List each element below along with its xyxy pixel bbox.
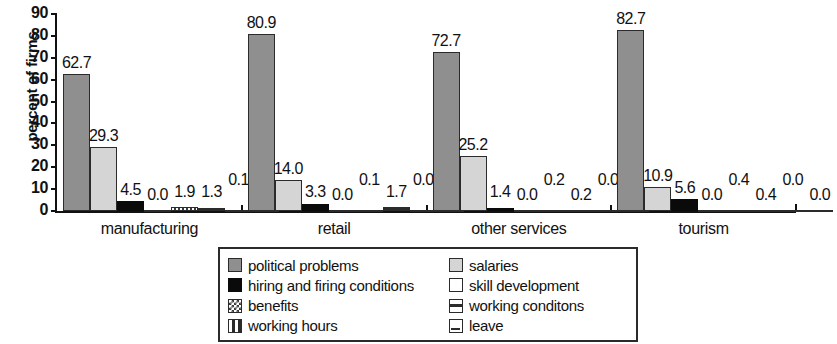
legend-item-label: benefits [248,297,298,314]
legend-item-label: leave [469,317,503,334]
y-tick-mark [51,144,57,146]
bar [806,210,833,212]
bar-value-label: 25.2 [451,136,495,154]
legend-item-label: political problems [248,257,358,274]
y-tick-label: 80 [14,26,48,44]
legend-item-political-problems[interactable]: political problems [228,255,449,275]
bar-value-label: 29.3 [82,127,126,145]
x-axis-group-label: tourism [611,220,796,238]
y-tick-label: 70 [14,48,48,66]
legend-item-label: working hours [248,317,337,334]
legend-item-label: salaries [469,257,518,274]
bar-value-label: 72.7 [424,32,468,50]
bar [302,204,329,211]
bar [171,207,198,211]
y-tick-mark [51,101,57,103]
light-gray-swatch-icon [449,258,463,272]
bar-value-label: 82.7 [609,10,653,28]
x-axis-group-label: other services [427,220,612,238]
legend: political problems hiring and firing con… [218,247,638,342]
bar [433,52,460,211]
legend-item-skill-development[interactable]: skill development [449,275,628,295]
vertical-stripe-swatch-icon [228,319,242,333]
white-swatch-icon [449,278,463,292]
y-axis-line [55,14,57,211]
legend-item-label: working conditons [469,297,584,314]
legend-item-salaries[interactable]: salaries [449,255,628,275]
y-tick-mark [51,122,57,124]
y-tick-mark [51,210,57,212]
legend-item-benefits[interactable]: benefits [228,296,449,316]
y-tick-mark [51,13,57,15]
black-swatch-icon [228,278,242,292]
legend-item-working-hours[interactable]: working hours [228,316,449,336]
bar [568,210,595,212]
bar [329,210,356,212]
bar [725,210,752,212]
y-tick-label: 30 [14,135,48,153]
legend-item-label: skill development [469,277,579,294]
y-tick-label: 40 [14,113,48,131]
y-tick-label: 20 [14,157,48,175]
y-tick-label: 50 [14,92,48,110]
checker-swatch-icon [228,299,242,313]
bar [248,34,275,211]
bar-value-label: 14.0 [266,160,310,178]
bar-value-label: 62.7 [55,54,99,72]
bar [383,207,410,211]
bar [356,210,383,212]
x-axis-group-label: manufacturing [57,220,242,238]
legend-column-left: political problems hiring and firing con… [228,255,449,336]
legend-item-leave[interactable]: leave [449,316,628,336]
horizontal-stripe-swatch-icon [449,299,463,313]
y-tick-label: 90 [14,4,48,22]
bar [752,210,779,212]
y-tick-label: 60 [14,70,48,88]
y-tick-mark [51,166,57,168]
y-tick-mark [51,79,57,81]
y-tick-label: 10 [14,179,48,197]
y-tick-mark [51,35,57,37]
bar [514,210,541,212]
bar [541,210,568,212]
legend-column-right: salaries skill development working condi… [449,255,628,336]
x-axis-group-label: retail [242,220,427,238]
solid-gray-swatch-icon [228,258,242,272]
bar [779,210,806,212]
bar [198,208,225,211]
legend-item-working-conditons[interactable]: working conditons [449,296,628,316]
bar [90,147,117,211]
bar-value-label: 0.0 [798,186,837,204]
bar-value-label: 80.9 [239,14,283,32]
leave-box-swatch-icon [449,319,463,333]
bar [144,210,171,212]
bar [487,208,514,211]
legend-item-hiring-and-firing-conditions[interactable]: hiring and firing conditions [228,275,449,295]
legend-item-label: hiring and firing conditions [248,277,414,294]
y-tick-label: 0 [14,201,48,219]
y-tick-mark [51,188,57,190]
bar [698,210,725,212]
